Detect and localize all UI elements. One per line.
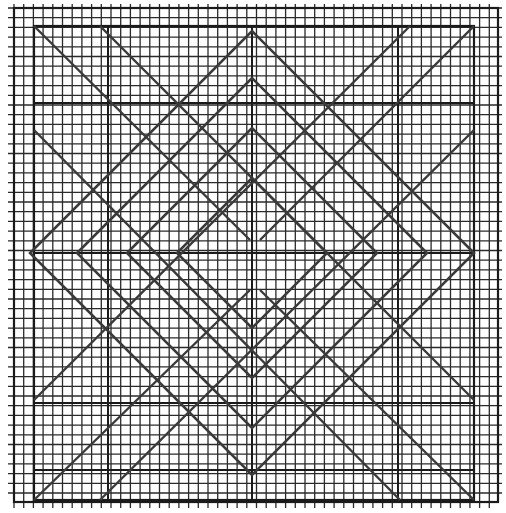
diagonal-line bbox=[260, 26, 474, 240]
inner-square bbox=[34, 26, 474, 500]
diagonal-line bbox=[260, 290, 474, 500]
diamond-grid-drawing bbox=[0, 0, 506, 513]
